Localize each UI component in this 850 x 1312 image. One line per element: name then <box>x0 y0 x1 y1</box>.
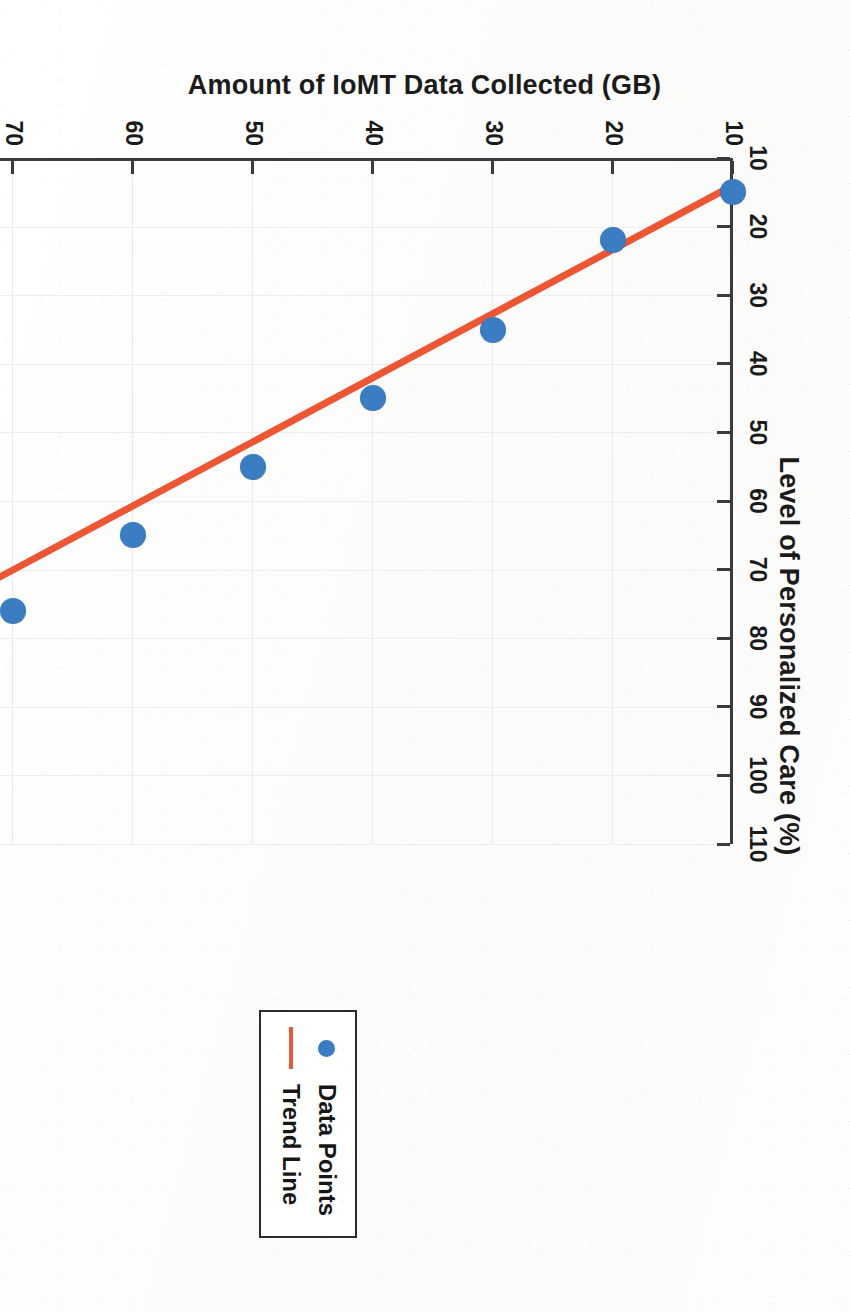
x-tick-label: 100 <box>744 756 771 794</box>
scanned-page: Level of Personalized Care (%) Amount of… <box>0 0 850 1312</box>
y-tick-label: 30 <box>480 120 507 146</box>
chart-legend: Data Points Trend Line <box>259 1010 357 1238</box>
x-tick-label: 90 <box>744 694 771 720</box>
legend-label-trend-line: Trend Line <box>277 1084 305 1205</box>
y-axis-title: Amount of IoMT Data Collected (GB) <box>105 70 745 101</box>
data-point <box>720 179 746 205</box>
x-tick-label: 10 <box>744 145 771 171</box>
x-axis-title: Level of Personalized Care (%) <box>773 0 804 1312</box>
y-tick-label: 10 <box>720 120 747 146</box>
y-tick-label: 60 <box>120 120 147 146</box>
data-point <box>360 385 386 411</box>
legend-label-data-points: Data Points <box>313 1084 341 1216</box>
y-tick-label: 70 <box>0 120 27 146</box>
x-tick-label: 60 <box>744 488 771 514</box>
y-tick-label: 40 <box>360 120 387 146</box>
plot-area: 1020304050607080901001101020304050607080… <box>0 158 733 844</box>
data-point <box>0 598 26 624</box>
legend-line-icon <box>289 1026 293 1070</box>
data-point <box>600 227 626 253</box>
y-tick-label: 20 <box>600 120 627 146</box>
x-tick-label: 20 <box>744 214 771 240</box>
x-tick-label: 40 <box>744 351 771 377</box>
x-tick-label: 110 <box>744 825 771 862</box>
data-point <box>120 522 146 548</box>
legend-dot-icon <box>319 1026 336 1070</box>
x-tick-label: 50 <box>744 420 771 446</box>
chart-figure: Level of Personalized Care (%) Amount of… <box>0 0 850 1312</box>
legend-item-data-points: Data Points <box>309 1026 345 1222</box>
data-point <box>480 317 506 343</box>
trend-line <box>0 158 733 844</box>
y-tick-label: 50 <box>240 120 267 146</box>
x-tick-label: 70 <box>744 557 771 583</box>
x-tick-label: 30 <box>744 282 771 308</box>
legend-item-trend-line: Trend Line <box>273 1026 309 1222</box>
data-point <box>240 454 266 480</box>
x-tick-label: 80 <box>744 625 771 651</box>
gridline-vertical <box>0 844 730 845</box>
